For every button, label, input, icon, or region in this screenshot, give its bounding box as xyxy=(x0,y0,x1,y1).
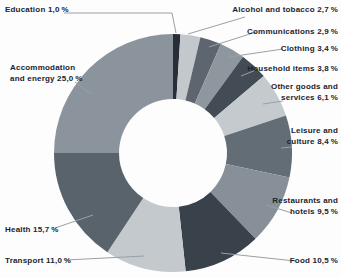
slice-accommodation-energy xyxy=(54,34,173,153)
leader-line-alcohol-tobacco xyxy=(188,17,245,34)
donut-chart xyxy=(0,0,341,278)
leader-line-communications xyxy=(209,32,256,47)
chart-area: Education 1,0 %Alcohol and tobacco 2,7 %… xyxy=(0,0,341,278)
leader-line-food xyxy=(221,253,295,261)
leader-line-education xyxy=(64,13,176,33)
